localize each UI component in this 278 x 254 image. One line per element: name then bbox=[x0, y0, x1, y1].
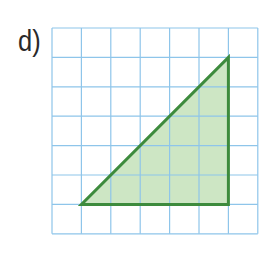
grid-figure bbox=[0, 0, 278, 254]
